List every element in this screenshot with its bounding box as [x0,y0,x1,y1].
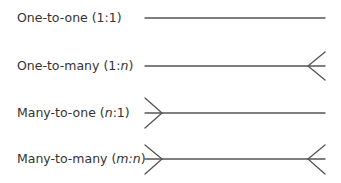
many-to-many-line [145,145,325,174]
many-to-one-line [145,98,325,128]
notation-lines [0,0,341,183]
one-to-many-line [145,52,325,80]
